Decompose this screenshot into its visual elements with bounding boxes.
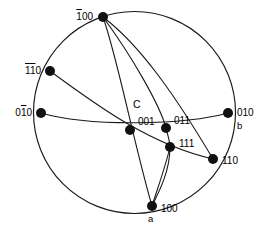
axis-b-label: b — [237, 120, 242, 131]
pole-label-100: 100 — [161, 203, 178, 214]
pole-dot-0bar10 — [36, 108, 46, 118]
primitive-circle-group — [34, 12, 236, 214]
pole-dot-011 — [161, 123, 171, 133]
pole-label-0bar10: 010 — [15, 107, 32, 118]
pole-label-bar100: 100 — [76, 11, 93, 22]
pole-dot-110 — [208, 154, 218, 164]
pole-label-110: 110 — [222, 155, 238, 166]
pole-dot-010 — [223, 108, 233, 118]
great-circle-arcs — [41, 17, 228, 206]
pole-labels: 100110010001011010111110100abC — [15, 11, 254, 224]
stereogram-canvas: 100110010001011010111110100abC — [0, 0, 269, 234]
pole-dot-bar100 — [98, 12, 108, 22]
arc-bar100-to-100 — [103, 17, 152, 206]
stereographic-projection-figure: 100110010001011010111110100abC — [0, 0, 269, 234]
pole-label-bar1bar10: 110 — [25, 65, 41, 76]
pole-dot-100 — [147, 201, 157, 211]
pole-label-011: 011 — [174, 115, 190, 126]
pole-label-111: 111 — [179, 138, 195, 149]
pole-dot-111 — [165, 142, 175, 152]
pole-dot-001 — [125, 125, 135, 135]
pole-label-001: 001 — [138, 116, 155, 127]
arc-0bar10-to-010 — [41, 113, 228, 123]
axis-a-label: a — [148, 213, 154, 224]
center-axis-label: C — [133, 98, 141, 110]
pole-label-010: 010 — [237, 107, 254, 118]
arc-111-to-100-vertical — [152, 147, 170, 206]
arc-bar100-to-110 — [103, 17, 213, 159]
arc-bar100-to-011-100 — [103, 17, 170, 206]
primitive-circle — [34, 12, 236, 214]
pole-dot-bar1bar10 — [45, 66, 55, 76]
pole-dots — [36, 12, 233, 211]
